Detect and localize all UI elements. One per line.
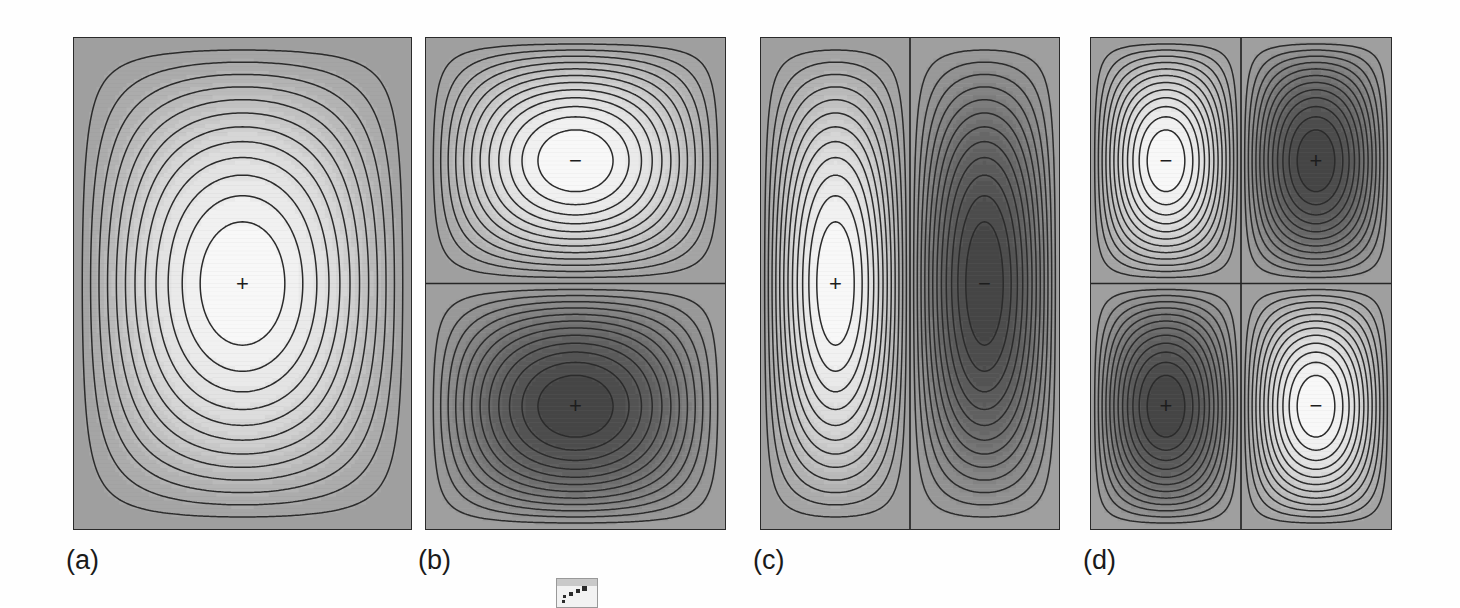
scan-artifact-speck-0 (563, 595, 566, 598)
panel-label-c: (c) (753, 545, 784, 576)
panel-label-d: (d) (1083, 545, 1116, 576)
sign-marker-positive-d-2: + (1160, 395, 1173, 417)
scan-artifact (556, 578, 598, 608)
contour-field-d (1091, 38, 1391, 529)
sign-marker-positive-a-0: + (236, 273, 249, 295)
contour-panel-b: −+ (425, 37, 726, 530)
contour-field-c (761, 38, 1059, 529)
contour-panel-d: −++− (1090, 37, 1392, 530)
sign-marker-negative-b-0: − (569, 150, 582, 172)
scan-artifact-speck-3 (582, 586, 587, 591)
panel-label-a: (a) (66, 545, 99, 576)
panel-label-b: (b) (418, 545, 451, 576)
scan-artifact-speck-4 (562, 600, 565, 603)
sign-marker-positive-d-1: + (1310, 150, 1323, 172)
sign-marker-negative-c-1: − (978, 273, 991, 295)
contour-panel-a: + (73, 37, 412, 530)
scan-artifact-bar (557, 579, 597, 586)
sign-marker-positive-c-0: + (829, 273, 842, 295)
sign-marker-negative-d-3: − (1310, 395, 1323, 417)
scan-artifact-speck-2 (576, 589, 580, 593)
contour-panel-c: +− (760, 37, 1060, 530)
scan-artifact-speck-1 (569, 592, 573, 596)
sign-marker-positive-b-1: + (569, 395, 582, 417)
contour-field-b (426, 38, 725, 529)
sign-marker-negative-d-0: − (1160, 150, 1173, 172)
